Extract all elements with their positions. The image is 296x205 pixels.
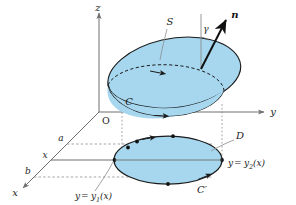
lower-bound-eq: = xyxy=(81,191,89,201)
diagram-svg: z y x O a x b S C xyxy=(0,0,296,205)
x-axis-label: x xyxy=(12,187,18,198)
boundary-point xyxy=(126,146,130,150)
y-axis-label: y xyxy=(269,106,276,117)
surface-label-S: S xyxy=(167,16,174,27)
boundary-label-C: C xyxy=(125,96,133,107)
curve-C-arrow-2 xyxy=(154,116,166,117)
boundary-point xyxy=(171,134,175,138)
normal-label-n: n xyxy=(231,9,238,20)
origin-label: O xyxy=(102,115,110,126)
boundary-point xyxy=(135,140,139,144)
lower-bound-arg: (x) xyxy=(100,191,113,201)
x-tick-label-x: x xyxy=(42,150,47,160)
figure-canvas: z y x O a x b S C xyxy=(0,0,296,205)
angle-label-gamma: γ xyxy=(203,24,209,34)
region-D-label-leader xyxy=(211,140,234,151)
lower-bound-label: y = y 1 (x) xyxy=(74,191,113,204)
upper-bound-lhs: y xyxy=(227,158,234,168)
x-tick-label-b: b xyxy=(25,166,31,176)
upper-bound-label: y = y 2 (x) xyxy=(227,158,266,171)
boundary-label-Cprime: C′ xyxy=(197,184,208,195)
lower-bound-lhs: y xyxy=(74,191,81,201)
lower-bound-leader xyxy=(95,162,113,191)
region-D xyxy=(95,134,234,191)
z-axis-label: z xyxy=(94,2,101,13)
boundary-point xyxy=(166,182,170,186)
region-D-label: D xyxy=(235,130,244,141)
upper-bound-arg: (x) xyxy=(253,158,266,168)
x-tick-label-a: a xyxy=(58,133,63,143)
upper-bound-eq: = xyxy=(234,158,242,168)
